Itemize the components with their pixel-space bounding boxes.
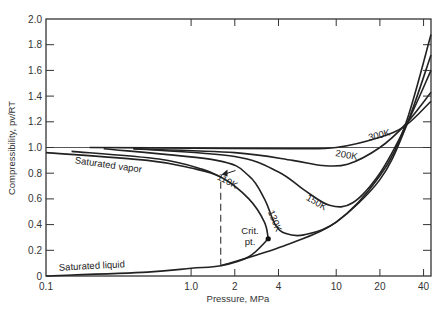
annotation-130k: 130K xyxy=(266,208,285,233)
data-curves xyxy=(46,34,431,276)
x-tick-label: 40 xyxy=(418,281,430,292)
y-tick-label: 0 xyxy=(36,271,42,282)
annotation-saturated-liquid: Saturated liquid xyxy=(59,258,126,272)
x-tick-label: 10 xyxy=(331,281,343,292)
x-tick-label: 2 xyxy=(232,281,238,292)
x-tick-label: 0.1 xyxy=(39,281,53,292)
critical-point-marker xyxy=(266,236,271,241)
y-tick-label: 0.6 xyxy=(28,193,42,204)
y-tick-label: 0.4 xyxy=(28,219,42,230)
curve-150k xyxy=(133,70,431,206)
y-tick-label: 1.2 xyxy=(28,116,42,127)
y-axis-title: Compressibility, pv/RT xyxy=(6,101,17,195)
annotation-200k: 200K xyxy=(335,147,359,162)
curve-300k xyxy=(90,101,431,149)
annotation-150k: 150K xyxy=(304,192,329,213)
x-tick-label: 20 xyxy=(374,281,386,292)
x-tick-label: 4 xyxy=(276,281,282,292)
annotation-pt: pt. xyxy=(245,236,256,247)
compressibility-chart: 0.11.02410204000.20.40.60.81.01.21.41.61… xyxy=(0,0,448,316)
x-axis-title: Pressure, MPa xyxy=(207,293,271,304)
y-tick-label: 2.0 xyxy=(28,14,42,25)
y-tick-label: 1.4 xyxy=(28,91,42,102)
y-tick-label: 1.8 xyxy=(28,39,42,50)
y-tick-label: 1.0 xyxy=(28,142,42,153)
x-tick-label: 1.0 xyxy=(184,281,198,292)
y-tick-label: 0.8 xyxy=(28,168,42,179)
y-tick-label: 0.2 xyxy=(28,245,42,256)
annotation-crit: Crit. xyxy=(241,225,258,236)
y-tick-label: 1.6 xyxy=(28,65,42,76)
